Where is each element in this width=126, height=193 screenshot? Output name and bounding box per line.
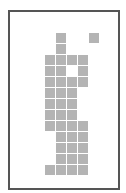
grid-cell <box>78 165 88 175</box>
grid-cell <box>67 55 77 65</box>
grid-cell <box>67 99 77 109</box>
grid-cell <box>45 121 55 131</box>
grid-cell <box>67 132 77 142</box>
grid-cell <box>45 165 55 175</box>
grid-cell <box>67 88 77 98</box>
grid-cell <box>45 88 55 98</box>
grid-cell <box>78 143 88 153</box>
grid-cell <box>56 99 66 109</box>
grid-cell <box>67 154 77 164</box>
grid-cell <box>56 55 66 65</box>
grid-cell <box>78 154 88 164</box>
grid-cell <box>67 110 77 120</box>
grid-cell <box>78 132 88 142</box>
grid-cell <box>45 110 55 120</box>
grid-cell <box>67 165 77 175</box>
grid-cell <box>56 44 66 54</box>
grid-cell <box>56 121 66 131</box>
grid-cell <box>78 121 88 131</box>
grid-cell <box>78 66 88 76</box>
grid-cell <box>56 143 66 153</box>
grid-cell <box>78 55 88 65</box>
grid-cell <box>78 77 88 87</box>
block-grid <box>0 0 126 193</box>
grid-cell <box>56 88 66 98</box>
grid-cell <box>56 165 66 175</box>
grid-cell <box>45 66 55 76</box>
grid-cell <box>56 154 66 164</box>
grid-cell <box>56 66 66 76</box>
grid-cell <box>45 99 55 109</box>
grid-cell <box>56 132 66 142</box>
grid-cell <box>45 77 55 87</box>
grid-cell <box>45 55 55 65</box>
grid-cell <box>67 143 77 153</box>
grid-cell <box>56 110 66 120</box>
grid-cell <box>56 33 66 43</box>
grid-cell <box>89 33 99 43</box>
grid-cell <box>67 121 77 131</box>
grid-cell <box>67 77 77 87</box>
grid-cell <box>56 77 66 87</box>
